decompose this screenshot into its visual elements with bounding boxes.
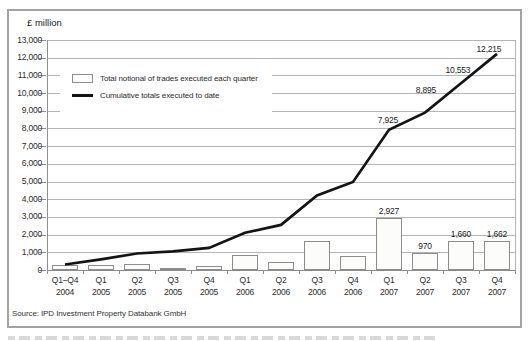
bar-q1-2006 bbox=[232, 255, 258, 270]
bar-q3-2007 bbox=[448, 241, 474, 270]
x-axis-label: Q42007 bbox=[488, 275, 506, 298]
y-axis-tick-label: 12,000 bbox=[4, 53, 42, 62]
bar-q2-2007 bbox=[412, 253, 438, 270]
y-gridline bbox=[47, 235, 515, 236]
y-gridline bbox=[47, 252, 515, 253]
bar-q3-2005 bbox=[160, 268, 186, 270]
y-gridline bbox=[47, 58, 515, 59]
legend-item-cumulative: Cumulative totals executed to date bbox=[72, 87, 258, 104]
x-axis-label: Q32005 bbox=[164, 275, 182, 298]
x-axis-label: Q42006 bbox=[344, 275, 362, 298]
x-axis-label: Q12007 bbox=[380, 275, 398, 298]
x-axis-tick bbox=[443, 270, 444, 274]
chart-legend: Total notional of trades executed each q… bbox=[60, 62, 272, 112]
bar-q1-2005 bbox=[88, 265, 114, 270]
x-axis-tick bbox=[515, 270, 516, 274]
y-axis-tick-label: 5,000 bbox=[4, 177, 42, 186]
bar-q2-2006 bbox=[268, 262, 294, 270]
bar-q1-q4-2004 bbox=[52, 265, 78, 270]
y-gridline bbox=[47, 199, 515, 200]
bar-value-label: 1,660 bbox=[451, 229, 471, 239]
y-axis-tick-label: 3,000 bbox=[4, 212, 42, 221]
x-axis-tick bbox=[407, 270, 408, 274]
x-axis-label: Q22005 bbox=[128, 275, 146, 298]
x-axis-tick bbox=[227, 270, 228, 274]
line-swatch-icon bbox=[72, 94, 93, 97]
x-axis-tick bbox=[119, 270, 120, 274]
bar-q4-2006 bbox=[340, 256, 366, 270]
y-gridline bbox=[47, 164, 515, 165]
x-axis-label: Q1–Q42004 bbox=[52, 275, 78, 298]
y-axis-tick-label: 7,000 bbox=[4, 142, 42, 151]
y-gridline bbox=[47, 217, 515, 218]
line-value-label: 12,215 bbox=[477, 44, 502, 54]
y-gridline bbox=[47, 270, 515, 271]
y-axis-tick-label: 1,000 bbox=[4, 248, 42, 257]
y-gridline bbox=[47, 40, 515, 41]
x-axis-label: Q42005 bbox=[200, 275, 218, 298]
legend-label-cumulative: Cumulative totals executed to date bbox=[100, 91, 219, 100]
legend-item-quarterly: Total notional of trades executed each q… bbox=[72, 70, 258, 87]
line-value-label: 8,895 bbox=[416, 85, 436, 95]
x-axis-label: Q32006 bbox=[308, 275, 326, 298]
bar-q2-2005 bbox=[124, 264, 150, 270]
source-note: Source: IPD Investment Property Databank… bbox=[12, 309, 186, 318]
bar-value-label: 2,927 bbox=[379, 206, 399, 216]
bar-q4-2005 bbox=[196, 266, 222, 270]
x-axis-tick bbox=[155, 270, 156, 274]
y-axis-tick-label: 0 bbox=[4, 266, 42, 275]
x-axis-tick bbox=[263, 270, 264, 274]
x-axis-label: Q12006 bbox=[236, 275, 254, 298]
bar-value-label: 970 bbox=[418, 241, 432, 251]
y-axis-tick-label: 9,000 bbox=[4, 106, 42, 115]
bar-swatch-icon bbox=[72, 74, 93, 83]
y-axis-tick-label: 8,000 bbox=[4, 124, 42, 133]
y-axis-tick-label: 4,000 bbox=[4, 195, 42, 204]
x-axis-tick bbox=[83, 270, 84, 274]
y-axis-tick-label: 13,000 bbox=[4, 36, 42, 45]
y-axis-line bbox=[47, 40, 48, 274]
x-axis-label: Q22006 bbox=[272, 275, 290, 298]
chart-plot-area: 01,0002,0003,0004,0005,0006,0007,0008,00… bbox=[0, 0, 531, 341]
y-axis-tick-label: 6,000 bbox=[4, 159, 42, 168]
y-axis-tick-label: 2,000 bbox=[4, 230, 42, 239]
y-axis-tick-label: 10,000 bbox=[4, 89, 42, 98]
bar-q4-2007 bbox=[484, 241, 510, 270]
bar-value-label: 1,662 bbox=[487, 229, 507, 239]
x-axis-tick bbox=[335, 270, 336, 274]
plot-right-border bbox=[515, 40, 516, 270]
x-axis-tick bbox=[299, 270, 300, 274]
line-value-label: 10,553 bbox=[446, 65, 471, 75]
x-axis-label: Q22007 bbox=[416, 275, 434, 298]
y-gridline bbox=[47, 146, 515, 147]
cropped-caption-text bbox=[8, 336, 438, 340]
legend-label-quarterly: Total notional of trades executed each q… bbox=[100, 74, 258, 83]
y-axis-tick-label: 11,000 bbox=[4, 71, 42, 80]
y-gridline bbox=[47, 128, 515, 129]
x-axis-tick bbox=[479, 270, 480, 274]
x-axis-tick bbox=[371, 270, 372, 274]
x-axis-tick bbox=[47, 270, 48, 274]
x-axis-label: Q12005 bbox=[92, 275, 110, 298]
bar-q3-2006 bbox=[304, 241, 330, 270]
x-axis-tick bbox=[191, 270, 192, 274]
x-axis-label: Q32007 bbox=[452, 275, 470, 298]
y-gridline bbox=[47, 182, 515, 183]
line-value-label: 7,925 bbox=[378, 115, 398, 125]
bar-q1-2007 bbox=[376, 218, 402, 270]
